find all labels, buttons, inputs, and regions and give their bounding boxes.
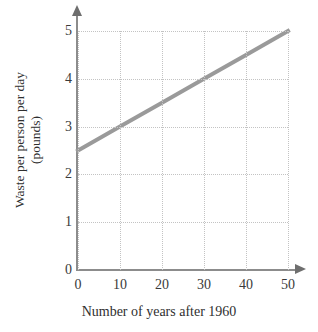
gridline-horizontal bbox=[78, 174, 288, 175]
x-tick-label: 40 bbox=[229, 278, 263, 292]
gridline-vertical bbox=[120, 31, 121, 270]
gridline-horizontal bbox=[78, 79, 288, 80]
y-tick-label: 0 bbox=[50, 263, 72, 277]
gridline-horizontal bbox=[78, 127, 288, 128]
gridline-vertical bbox=[162, 31, 163, 270]
y-axis-label-line2: (pounds) bbox=[28, 72, 44, 208]
y-tick-label: 3 bbox=[50, 120, 72, 134]
y-tick-label: 1 bbox=[50, 215, 72, 229]
gridline-vertical bbox=[204, 31, 205, 270]
x-tick-label: 30 bbox=[187, 278, 221, 292]
data-line-svg bbox=[78, 31, 288, 270]
x-axis-arrow-icon bbox=[295, 264, 306, 274]
x-tick-label: 10 bbox=[103, 278, 137, 292]
y-tick-label: 5 bbox=[50, 24, 72, 38]
y-axis-arrow-icon bbox=[72, 5, 82, 16]
gridline-vertical bbox=[288, 31, 289, 270]
y-axis-label-line1: Waste per person per day bbox=[12, 72, 28, 208]
y-tick-label: 2 bbox=[50, 167, 72, 181]
gridline-vertical bbox=[78, 31, 79, 270]
y-tick-label: 4 bbox=[50, 72, 72, 86]
x-tick-label: 0 bbox=[61, 278, 95, 292]
x-tick-label: 50 bbox=[271, 278, 305, 292]
x-axis-label: Number of years after 1960 bbox=[0, 304, 318, 320]
gridline-horizontal bbox=[78, 222, 288, 223]
x-axis-ticks: 01020304050 bbox=[0, 278, 318, 298]
y-axis-label-text: Waste per person per day (pounds) bbox=[12, 72, 44, 208]
chart-figure: Waste per person per day (pounds) 012345… bbox=[0, 0, 318, 332]
gridline-vertical bbox=[246, 31, 247, 270]
data-series-line bbox=[78, 31, 288, 151]
x-tick-label: 20 bbox=[145, 278, 179, 292]
gridline-horizontal bbox=[78, 31, 288, 32]
plot-area bbox=[78, 31, 288, 270]
